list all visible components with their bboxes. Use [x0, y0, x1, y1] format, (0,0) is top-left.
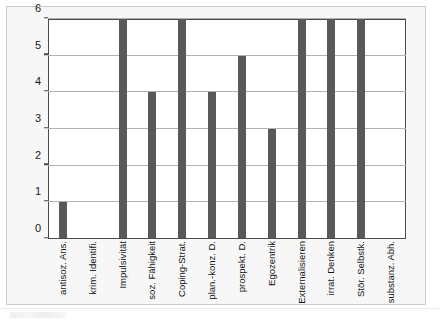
bar-slot [346, 19, 376, 239]
x-axis-label-slot: substanz. Abh. [376, 241, 406, 313]
x-axis-label-slot: krim. Identifi. [78, 241, 108, 313]
bar [298, 19, 306, 239]
bar [268, 129, 276, 239]
x-axis-tick-label: Coping-Strat. [177, 241, 187, 297]
y-axis-tick-label: 1 [35, 186, 41, 197]
bar-slot [108, 19, 138, 239]
x-axis-tick-label: plan.-konz. D. [207, 241, 217, 300]
x-axis-tick-label: antisoz. Ans. [58, 241, 68, 295]
y-axis-tick-label: 0 [35, 223, 41, 234]
y-axis-tick-label: 3 [35, 113, 41, 124]
y-axis-tick-label: 6 [35, 3, 41, 14]
bar-slot [257, 19, 287, 239]
y-axis-tick-label: 4 [35, 76, 41, 87]
x-axis-tick-label: prospekt. D. [237, 241, 247, 292]
bar [148, 92, 156, 239]
x-axis-label-slot: soz. Fähigkeit [138, 241, 168, 313]
bar-slot [227, 19, 257, 239]
y-axis-tick-label: 2 [35, 149, 41, 160]
x-axis-tick-label: soz. Fähigkeit [148, 241, 158, 300]
bar [59, 202, 67, 239]
x-axis-label-slot: Stör. Selbstk. [346, 241, 376, 313]
x-axis-label-slot: prospekt. D. [227, 241, 257, 313]
bar-slot [287, 19, 317, 239]
bar [357, 19, 365, 239]
x-axis-tick-label: Egozentrik [267, 241, 277, 286]
x-axis-baseline [48, 238, 406, 240]
x-axis-tick-label: Stör. Selbstk. [356, 241, 366, 297]
y-axis-tick-label: 5 [35, 39, 41, 50]
x-axis-label-slot: Impulsivität [108, 241, 138, 313]
plot-region: 0123456 [48, 19, 406, 239]
bars [48, 19, 406, 239]
x-axis-label-slot: Egozentrik [257, 241, 287, 313]
bar-slot [78, 19, 108, 239]
bar-slot [48, 19, 78, 239]
bar-slot [376, 19, 406, 239]
bar-slot [317, 19, 347, 239]
bar [327, 19, 335, 239]
x-axis-tick-label: substanz. Abh. [386, 241, 396, 303]
bar-slot [167, 19, 197, 239]
x-axis-label-slot: irrat. Denken [317, 241, 347, 313]
bar [238, 56, 246, 239]
bar [208, 92, 216, 239]
x-axis-label-slot: Coping-Strat. [167, 241, 197, 313]
x-axis-label-slot: antisoz. Ans. [48, 241, 78, 313]
bar [119, 19, 127, 239]
bar [178, 19, 186, 239]
x-axis-label-slot: Externalisieren [287, 241, 317, 313]
x-axis-tick-label: krim. Identifi. [88, 241, 98, 295]
bar-slot [197, 19, 227, 239]
chart-screenshot: 0123456 antisoz. Ans.krim. Identifi.Impu… [0, 0, 440, 323]
x-axis-tick-label: Externalisieren [297, 241, 307, 304]
x-axis-label-slot: plan.-konz. D. [197, 241, 227, 313]
x-axis-labels: antisoz. Ans.krim. Identifi.Impulsivität… [48, 241, 406, 313]
x-axis-tick-label: irrat. Denken [327, 241, 337, 295]
x-axis-tick-label: Impulsivität [118, 241, 128, 289]
bar-slot [138, 19, 168, 239]
